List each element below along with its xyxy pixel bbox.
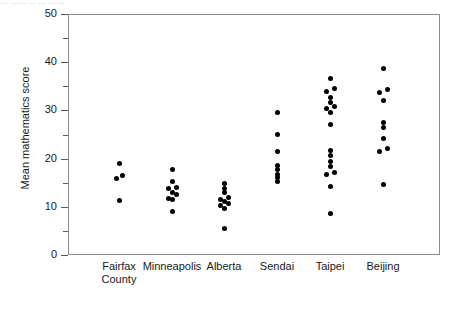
data-point xyxy=(275,167,280,172)
data-point xyxy=(385,87,390,92)
y-axis-title: Mean mathematics score xyxy=(19,43,31,213)
dot-plot-figure: ... ...... .. ... ...... Mean mathematic… xyxy=(0,0,449,313)
data-point xyxy=(381,98,386,103)
y-axis-tick-label: 40 xyxy=(17,56,57,67)
data-point xyxy=(385,146,390,151)
y-axis-tick-major xyxy=(61,62,68,63)
y-axis-tick-major xyxy=(61,207,68,208)
data-point xyxy=(226,201,231,206)
data-point xyxy=(275,179,280,184)
data-point xyxy=(275,149,280,154)
data-point xyxy=(328,95,333,100)
y-axis-tick-label: 30 xyxy=(17,104,57,115)
y-axis-tick-label: 20 xyxy=(17,153,57,164)
data-point xyxy=(381,182,386,187)
data-point xyxy=(324,172,329,177)
data-point xyxy=(170,209,175,214)
data-point xyxy=(328,184,333,189)
data-point xyxy=(222,190,227,195)
y-axis-tick-major xyxy=(61,14,68,15)
data-point xyxy=(332,86,337,91)
data-point xyxy=(275,132,280,137)
y-axis-tick-label: 0 xyxy=(17,249,57,260)
top-caption-text: ... ...... .. ... ...... xyxy=(0,0,260,8)
data-point xyxy=(117,198,122,203)
data-point xyxy=(328,122,333,127)
data-point xyxy=(222,226,227,231)
plot-area xyxy=(68,14,440,255)
data-point xyxy=(174,192,179,197)
y-axis-tick-label: 10 xyxy=(17,201,57,212)
y-axis-tick-label: 50 xyxy=(17,8,57,19)
x-axis-label-line: County xyxy=(64,273,174,286)
data-point xyxy=(328,110,333,115)
data-point xyxy=(332,170,337,175)
data-point xyxy=(332,104,337,109)
data-point xyxy=(328,211,333,216)
data-point xyxy=(170,167,175,172)
x-axis-label-line: Beijing xyxy=(328,260,438,273)
data-point xyxy=(275,110,280,115)
data-point xyxy=(170,197,175,202)
data-point xyxy=(381,66,386,71)
data-point xyxy=(381,125,386,130)
x-axis-category-label: Beijing xyxy=(328,260,438,273)
data-point xyxy=(117,161,122,166)
data-point xyxy=(222,206,227,211)
data-point xyxy=(174,185,179,190)
y-axis-tick-major xyxy=(61,255,68,256)
y-axis-tick-major xyxy=(61,110,68,111)
data-point xyxy=(381,136,386,141)
data-point xyxy=(377,90,382,95)
data-point xyxy=(328,153,333,158)
data-point xyxy=(377,149,382,154)
data-point xyxy=(120,173,125,178)
data-point xyxy=(114,176,119,181)
data-point xyxy=(170,179,175,184)
y-axis-tick-major xyxy=(61,159,68,160)
data-point xyxy=(328,164,333,169)
data-point xyxy=(324,89,329,94)
data-point xyxy=(328,76,333,81)
